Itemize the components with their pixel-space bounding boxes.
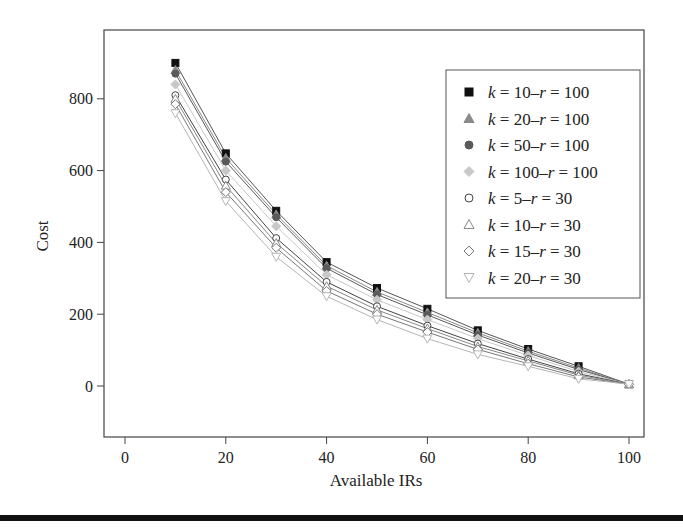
x-tick-label: 20	[218, 449, 234, 466]
page-bottom-rule	[0, 515, 683, 521]
legend-label: k = 20–r = 100	[488, 110, 589, 129]
y-tick-label: 600	[69, 162, 93, 179]
legend-frame	[446, 70, 640, 298]
y-tick-label: 0	[85, 378, 93, 395]
x-tick-label: 0	[121, 449, 129, 466]
circle-filled-marker-icon	[465, 141, 473, 149]
y-tick-label: 800	[69, 90, 93, 107]
circle-filled-marker-icon	[222, 158, 229, 165]
x-tick-label: 80	[520, 449, 536, 466]
y-axis: 0200400600800	[69, 90, 104, 394]
legend-label: k = 50–r = 100	[488, 136, 589, 155]
y-tick-label: 200	[69, 306, 93, 323]
legend-label: k = 5–r = 30	[488, 189, 572, 208]
legend-label: k = 10–r = 30	[488, 216, 581, 235]
square-filled-marker-icon	[465, 88, 473, 96]
legend: k = 10–r = 100k = 20–r = 100k = 50–r = 1…	[446, 70, 640, 298]
x-tick-label: 40	[319, 449, 335, 466]
circle-filled-marker-icon	[172, 70, 179, 77]
y-tick-label: 400	[69, 234, 93, 251]
x-axis: 020406080100	[121, 437, 641, 466]
legend-label: k = 100–r = 100	[488, 163, 598, 182]
circle-open-marker-icon	[465, 194, 473, 202]
y-axis-title: Cost	[33, 220, 52, 251]
x-tick-label: 100	[617, 449, 641, 466]
cost-vs-available-irs-chart: 0200400600800 020406080100 Cost Availabl…	[0, 0, 683, 530]
legend-label: k = 10–r = 100	[488, 83, 589, 102]
x-axis-title: Available IRs	[330, 471, 423, 490]
circle-filled-marker-icon	[273, 214, 280, 221]
x-tick-label: 60	[419, 449, 435, 466]
legend-label: k = 20–r = 30	[488, 269, 581, 288]
legend-label: k = 15–r = 30	[488, 242, 581, 261]
